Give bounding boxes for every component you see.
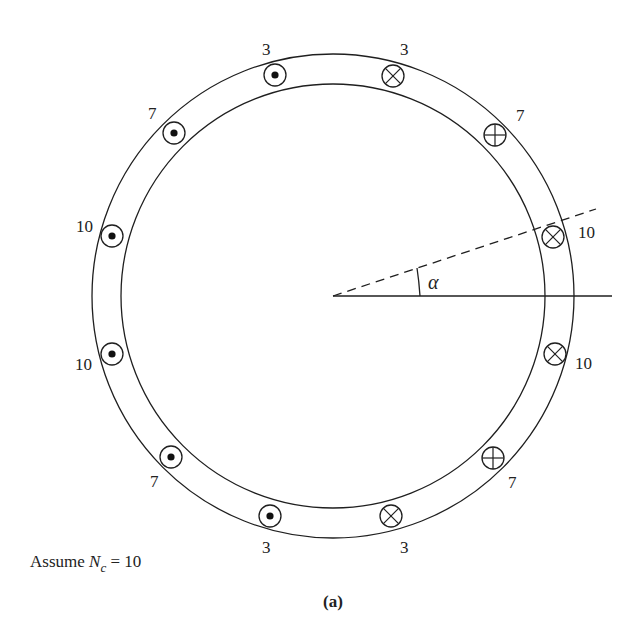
conductor-top-left xyxy=(264,64,286,86)
note-suffix: = 10 xyxy=(106,552,141,571)
angle-arc xyxy=(417,268,420,296)
conductor-left-lower xyxy=(101,343,123,365)
figure-caption: (a) xyxy=(323,592,343,611)
turn-label-top-right: 3 xyxy=(400,40,409,59)
turn-label-right-lower: 10 xyxy=(575,354,592,373)
current-out-dot-icon xyxy=(167,453,174,460)
conductor-right-upper xyxy=(542,226,564,248)
conductor-upper-left xyxy=(163,122,185,144)
angle-line-dashed xyxy=(333,209,596,296)
turn-label-upper-left: 7 xyxy=(148,104,157,123)
conductor-upper-right xyxy=(484,124,506,146)
turn-label-bottom-right: 3 xyxy=(400,538,409,557)
current-out-dot-icon xyxy=(271,71,278,78)
conductor-top-right xyxy=(382,65,404,87)
stator-winding-diagram: α 3 3 7 10 10 7 xyxy=(0,0,640,632)
turn-label-left-lower: 10 xyxy=(75,355,92,374)
conductor-bottom-right xyxy=(380,505,402,527)
conductor-lower-right xyxy=(482,447,504,469)
turn-label-right-upper: 10 xyxy=(578,223,595,242)
turn-label-top-left: 3 xyxy=(262,40,271,59)
turn-label-left-upper: 10 xyxy=(76,217,93,236)
conductor-lower-left xyxy=(160,446,182,468)
conductor-bottom-left xyxy=(259,505,281,527)
turn-label-bottom-left: 3 xyxy=(262,538,271,557)
current-out-dot-icon xyxy=(108,350,115,357)
current-out-dot-icon xyxy=(170,129,177,136)
angle-alpha-label: α xyxy=(428,271,439,293)
turn-label-lower-right: 7 xyxy=(508,473,517,492)
turn-label-lower-left: 7 xyxy=(150,472,159,491)
conductor-left-upper xyxy=(101,225,123,247)
current-out-dot-icon xyxy=(266,512,273,519)
conductor-right-lower xyxy=(544,343,566,365)
note-prefix: Assume xyxy=(30,552,89,571)
assumption-note: Assume Nc = 10 xyxy=(30,552,141,575)
turn-label-upper-right: 7 xyxy=(516,106,525,125)
current-out-dot-icon xyxy=(108,232,115,239)
